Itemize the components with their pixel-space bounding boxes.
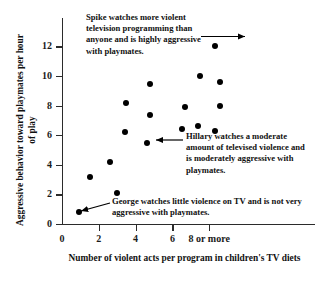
data-point [217,79,223,85]
data-point [182,104,188,110]
data-point [217,103,223,109]
y-tick [56,165,63,166]
data-point-george [76,209,82,215]
x-tick [209,224,210,231]
annotation-label-spike: Spike watches more violent television pr… [86,12,214,57]
y-axis-title: Aggressive behavior toward playmates per… [14,30,38,230]
data-point [123,100,129,106]
x-tick-label: 4 [133,234,138,244]
y-tick [56,46,63,47]
x-tick [99,224,100,231]
x-axis-title: Number of violent acts per program in ch… [62,252,307,264]
plot-area: 024681012 02468 or more [0,0,328,284]
x-tick [136,224,137,231]
x-tick-label: 6 [170,234,175,244]
annotation-label-george: George watches little violence on TV and… [112,196,312,218]
scatter-plot-figure: 024681012 02468 or more [0,0,328,284]
y-tick [56,194,63,195]
annotation-label-hillary: Hillary watches a moderate amount of tel… [186,131,312,176]
data-point [107,159,113,165]
x-tick [172,224,173,231]
data-point [114,190,120,196]
data-point [195,123,201,129]
data-point [147,112,153,118]
data-point-hillary [144,140,150,146]
data-point [87,174,93,180]
x-tick-label: 8 or more [189,234,230,244]
y-tick [56,106,63,107]
x-tick-label: 0 [60,234,65,244]
x-tick-label: 2 [96,234,101,244]
data-point [147,81,153,87]
data-point [179,126,185,132]
data-point [197,73,203,79]
y-tick [56,135,63,136]
y-tick [56,76,63,77]
data-point [122,129,128,135]
y-tick [56,224,63,225]
